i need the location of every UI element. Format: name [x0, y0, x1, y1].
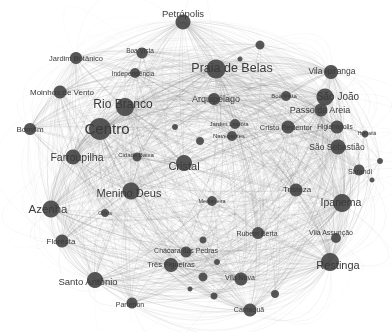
- network-graph-figure: PetrópolisJardim BotânicoBoa VistaIndepe…: [0, 0, 392, 332]
- network-graph-canvas[interactable]: [0, 0, 392, 332]
